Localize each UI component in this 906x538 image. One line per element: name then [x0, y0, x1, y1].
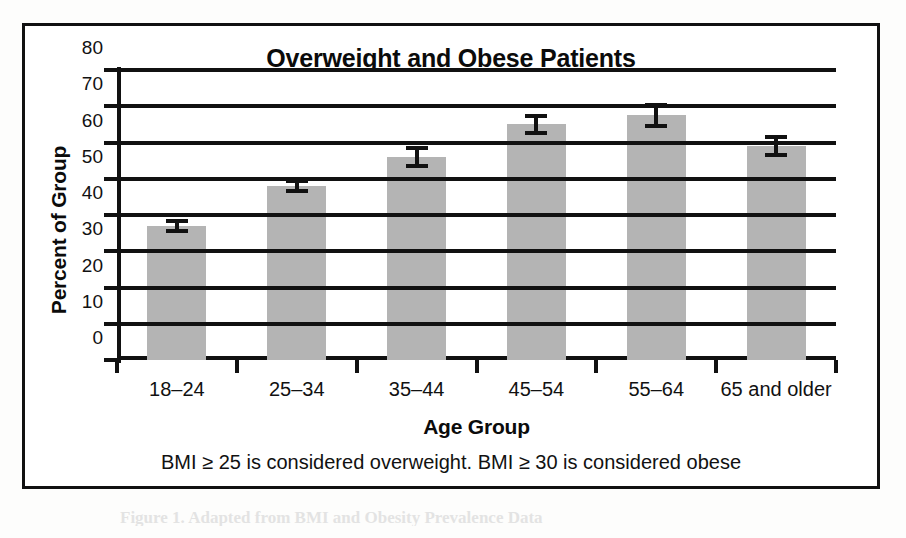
error-bar-cap-upper	[765, 135, 787, 139]
y-axis-tick-label: 20	[51, 255, 103, 277]
error-bar	[286, 179, 308, 194]
error-bar	[166, 219, 188, 234]
error-bar-cap-upper	[406, 146, 428, 150]
figure-frame: Overweight and Obese Patients Percent of…	[22, 23, 880, 489]
x-axis-category-label: 25–34	[269, 378, 325, 401]
error-bar	[645, 103, 667, 128]
y-axis-tick	[104, 322, 118, 326]
error-bar-cap-lower	[525, 131, 547, 135]
y-axis-tick-label: 30	[51, 218, 103, 240]
error-bar-cap-lower	[645, 124, 667, 128]
x-axis-tick	[594, 360, 598, 373]
y-axis-tick	[104, 177, 118, 181]
y-axis-tick	[104, 249, 118, 253]
x-axis-title: Age Group	[117, 415, 836, 439]
x-axis-tick	[475, 360, 479, 373]
error-bar-cap-upper	[645, 103, 667, 107]
x-axis-category-label: 35–44	[389, 378, 445, 401]
x-axis-ticks-group	[117, 360, 836, 374]
error-bar	[406, 146, 428, 168]
error-bar	[525, 114, 547, 136]
y-axis-tick-label: 40	[51, 182, 103, 204]
error-bar-cap-lower	[166, 229, 188, 233]
x-axis-tick	[355, 360, 359, 373]
error-bar-cap-lower	[286, 189, 308, 193]
error-bar-cap-upper	[286, 179, 308, 183]
x-axis-tick	[235, 360, 239, 373]
y-axis-tick-label: 70	[51, 73, 103, 95]
page-remnant-text: Figure 1. Adapted from BMI and Obesity P…	[120, 508, 820, 526]
y-axis-tick	[104, 68, 118, 72]
x-axis-category-labels: 18–2425–3435–4445–5455–6465 and older	[117, 378, 836, 408]
y-axis-tick	[104, 141, 118, 145]
error-bar-cap-upper	[525, 114, 547, 118]
y-axis-tick-label: 60	[51, 110, 103, 132]
y-axis-tick-label: 80	[51, 37, 103, 59]
x-axis-category-label: 45–54	[509, 378, 565, 401]
y-axis-tick	[104, 286, 118, 290]
chart-caption: BMI ≥ 25 is considered overweight. BMI ≥…	[25, 451, 877, 474]
x-axis-tick	[714, 360, 718, 373]
x-axis-tick	[834, 360, 838, 373]
x-axis-category-label: 18–24	[149, 378, 205, 401]
y-axis-tick-label: 50	[51, 146, 103, 168]
x-axis-category-label: 55–64	[628, 378, 684, 401]
x-axis-category-label: 65 and older	[720, 378, 831, 401]
y-axis-tick-label: 0	[51, 327, 103, 349]
error-bars-group	[117, 70, 836, 360]
error-bar	[765, 135, 787, 157]
y-axis-tick	[104, 213, 118, 217]
error-bar-cap-lower	[406, 164, 428, 168]
y-axis-tick-label: 10	[51, 291, 103, 313]
y-axis-tick	[104, 104, 118, 108]
x-axis-tick	[115, 360, 119, 373]
plot-area: 01020304050607080	[117, 70, 836, 360]
error-bar-cap-upper	[166, 219, 188, 223]
error-bar-cap-lower	[765, 153, 787, 157]
